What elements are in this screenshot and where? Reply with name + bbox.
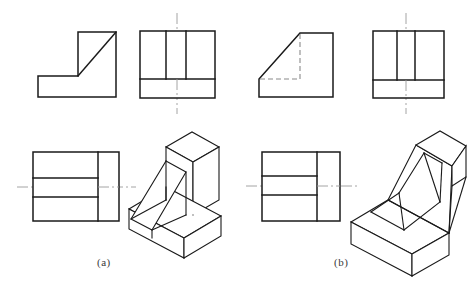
- view-a-front: [38, 32, 116, 97]
- technical-drawing-canvas: .ln { stroke:#1a1a1a; stroke-width:1.5; …: [0, 0, 473, 283]
- view-b-front: [259, 33, 333, 97]
- view-a-isometric: [129, 132, 221, 259]
- group-b: [246, 13, 466, 276]
- caption-b: (b): [334, 256, 348, 268]
- view-b-top: [246, 152, 358, 221]
- view-a-side: [140, 13, 215, 114]
- view-b-isometric: [351, 131, 466, 276]
- view-a-top: [17, 152, 136, 221]
- caption-a: (a): [97, 256, 111, 268]
- drawing-sheet: .ln { stroke:#1a1a1a; stroke-width:1.5; …: [0, 0, 473, 283]
- group-a: [17, 13, 221, 259]
- view-b-side: [373, 13, 444, 114]
